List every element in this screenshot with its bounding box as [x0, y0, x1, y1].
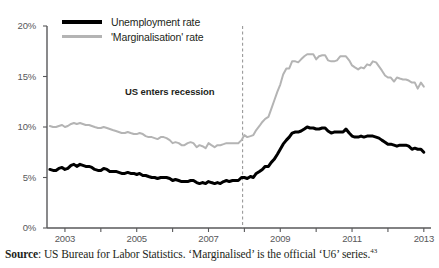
annotation-us-enters-recession: US enters recession: [125, 86, 214, 97]
source-text: : US Bureau for Labor Statistics. ‘Margi…: [38, 248, 370, 260]
legend-item-marginalisation-rate: 'Marginalisation' rate: [62, 29, 203, 44]
legend-swatch-marginalisation-rate: [62, 35, 102, 38]
source-prefix: Source: [5, 248, 38, 260]
figure-unemployment-marginalisation: 20%15%10%5%0% 200320052007200920112013 U…: [0, 0, 439, 268]
x-axis-label-2013: 2013: [402, 233, 439, 244]
x-axis-label-2007: 2007: [186, 233, 230, 244]
y-axis-label-5pct: 5%: [2, 172, 36, 183]
y-axis-label-10pct: 10%: [2, 121, 36, 132]
legend-label-marginalisation-rate: 'Marginalisation' rate: [111, 31, 203, 43]
legend-label-unemployment-rate: Unemployment rate: [111, 16, 200, 28]
x-axis-label-2009: 2009: [258, 233, 302, 244]
source-caption: Source: US Bureau for Labor Statistics. …: [5, 247, 435, 260]
x-axis-label-2003: 2003: [43, 233, 87, 244]
chart-plot-area: 20%15%10%5%0% 200320052007200920112013 U…: [0, 0, 439, 240]
y-axis-label-20pct: 20%: [2, 20, 36, 31]
source-footnote: 43: [370, 247, 377, 255]
legend-item-unemployment-rate: Unemployment rate: [62, 14, 203, 29]
series-line-unemployment-rate: [50, 127, 424, 184]
legend-swatch-unemployment-rate: [62, 20, 102, 24]
chart-legend: Unemployment rate 'Marginalisation' rate: [62, 14, 203, 44]
x-axis-label-2005: 2005: [115, 233, 159, 244]
x-axis-label-2011: 2011: [330, 233, 374, 244]
y-axis-label-15pct: 15%: [2, 71, 36, 82]
y-axis-label-0pct: 0%: [2, 222, 36, 233]
series-line-marginalisation-rate: [50, 54, 424, 148]
